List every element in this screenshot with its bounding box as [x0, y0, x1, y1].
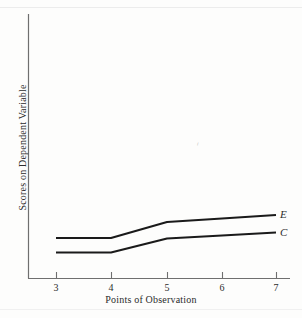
series-label-E: E — [280, 208, 287, 220]
x-tick-label-4: 4 — [104, 282, 118, 293]
y-axis-title: Scores on Dependent Variable — [17, 53, 28, 243]
x-axis-title: Points of Observation — [0, 294, 302, 305]
x-tick-label-7: 7 — [269, 282, 283, 293]
x-tick-label-6: 6 — [215, 282, 229, 293]
x-tick-label-3: 3 — [49, 282, 63, 293]
series-line-C — [56, 233, 276, 253]
series-label-C: C — [280, 226, 287, 238]
chart-figure: ⁱ 3 4 5 6 7 Points of Observation Scores… — [0, 0, 302, 318]
line-chart-plot — [0, 0, 302, 318]
x-tick-label-5: 5 — [160, 282, 174, 293]
scan-speck-artifact: ⁱ — [196, 143, 200, 149]
